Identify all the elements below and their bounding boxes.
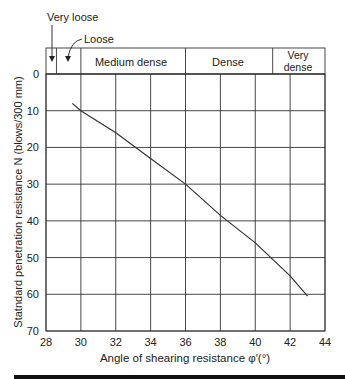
- y-tick-label: 30: [27, 178, 39, 190]
- x-tick-labels: 283032343638404244: [40, 336, 331, 348]
- chart: Medium dense Dense Very dense Very loose…: [0, 0, 345, 379]
- y-tick-labels: 010203040506070: [27, 68, 39, 337]
- y-tick-label: 60: [27, 288, 39, 300]
- x-tick-label: 38: [214, 336, 226, 348]
- band-label-medium-dense: Medium dense: [95, 56, 167, 68]
- band-label-very-dense-1: Very: [287, 49, 309, 61]
- x-tick-label: 34: [145, 336, 157, 348]
- band-label-dense: Dense: [212, 56, 244, 68]
- x-tick-label: 44: [319, 336, 331, 348]
- annotation-loose: Loose: [84, 33, 114, 45]
- y-axis-label: Statndard penetration resistance N (blow…: [12, 76, 24, 327]
- x-tick-label: 40: [249, 336, 261, 348]
- y-tick-label: 50: [27, 252, 39, 264]
- bottom-rule: [14, 375, 345, 379]
- data-curve: [72, 103, 307, 296]
- y-tick-label: 40: [27, 215, 39, 227]
- x-tick-label: 30: [75, 336, 87, 348]
- annotation-very-loose: Very loose: [47, 11, 98, 23]
- y-tick-label: 10: [27, 105, 39, 117]
- x-tick-label: 42: [284, 336, 296, 348]
- arrow-down-icon: [65, 56, 71, 62]
- y-tick-label: 20: [27, 141, 39, 153]
- x-axis-label: Angle of shearing resistance φ′(°): [100, 352, 270, 364]
- x-tick-label: 32: [110, 336, 122, 348]
- y-tick-label: 70: [27, 325, 39, 337]
- arrow-down-icon: [49, 56, 55, 62]
- grid: [46, 74, 325, 331]
- band-label-very-dense-2: dense: [284, 61, 313, 73]
- x-tick-label: 28: [40, 336, 52, 348]
- x-tick-label: 36: [179, 336, 191, 348]
- y-tick-label: 0: [33, 68, 39, 80]
